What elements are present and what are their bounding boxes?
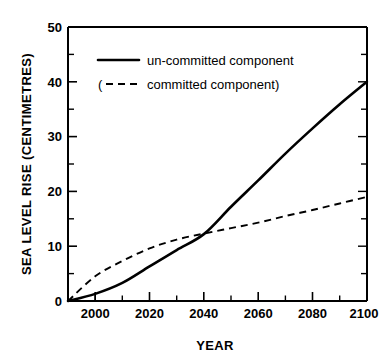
legend-open-paren: ( — [98, 77, 103, 92]
plot-frame — [68, 27, 367, 301]
x-tick-label-2080: 2080 — [298, 306, 327, 321]
y-tick-label-40: 40 — [48, 75, 62, 90]
x-tick-label-2100: 2100 — [350, 306, 379, 321]
x-tick-label-2040: 2040 — [189, 306, 218, 321]
legend-label-committed: committed component) — [147, 77, 279, 92]
legend-label-un-committed: un-committed component — [147, 53, 294, 68]
sea-level-rise-chart: 0 10 20 30 40 50 2000 2020 2040 2060 208… — [0, 0, 387, 362]
y-axis-title: SEA LEVEL RISE (CENTIMETRES) — [19, 53, 34, 275]
x-axis-title: YEAR — [196, 338, 234, 353]
y-tick-label-50: 50 — [48, 20, 62, 35]
chart-legend: un-committed component ( committed compo… — [98, 53, 294, 92]
y-tick-label-10: 10 — [48, 239, 62, 254]
series-un-committed-component-curve — [68, 82, 367, 301]
x-tick-label-2000: 2000 — [81, 306, 110, 321]
y-tick-label-20: 20 — [48, 184, 62, 199]
series-committed-component — [68, 197, 367, 301]
x-tick-label-2020: 2020 — [135, 306, 164, 321]
x-axis-ticks — [95, 292, 367, 301]
y-tick-label-0: 0 — [55, 294, 62, 309]
y-tick-label-30: 30 — [48, 129, 62, 144]
chart-canvas: 0 10 20 30 40 50 2000 2020 2040 2060 208… — [0, 0, 387, 362]
y-axis-ticks — [68, 27, 77, 301]
x-tick-label-2060: 2060 — [244, 306, 273, 321]
